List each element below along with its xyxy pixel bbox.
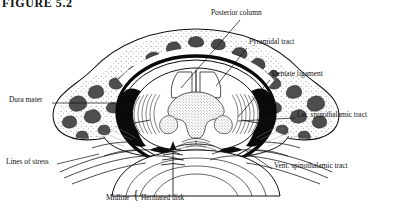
midline-brace: {: [133, 189, 139, 201]
figure-root: FIGURE 5.2: [0, 0, 393, 222]
label-posterior-column: Posterior column: [211, 9, 262, 16]
label-herniated-disk: Herniated disk: [141, 194, 184, 201]
label-vent-spinothalamic-tract: Vent. spinothalamic tract: [274, 162, 348, 169]
spinal-cord: [132, 68, 259, 155]
label-pyramidal-tract: Pyramidal tract: [249, 38, 294, 45]
label-lines-of-stress: Lines of stress: [6, 158, 49, 165]
label-dura-mater: Dura mater: [9, 96, 42, 103]
label-dentate-ligament: Dentate ligament: [272, 70, 323, 77]
label-lat-spinothalamic-tract: Lat. spinothalamic tract: [297, 111, 367, 118]
label-midline: Midline: [106, 194, 129, 201]
